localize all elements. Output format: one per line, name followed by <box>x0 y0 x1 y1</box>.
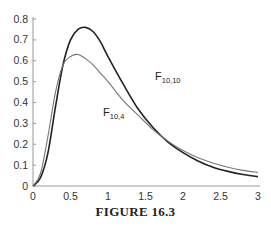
y-tick-label: 0.2 <box>13 138 28 150</box>
series-label-10-4: F10,4 <box>103 106 124 121</box>
series-lines <box>33 27 258 186</box>
x-tick-label: 0 <box>30 190 36 202</box>
y-tick-label: 0.1 <box>13 159 28 171</box>
y-tick-label: 0.6 <box>13 54 28 66</box>
y-tick-label: 0 <box>22 180 28 192</box>
y-tick-label: 0.4 <box>13 96 28 108</box>
x-tick-label: 2.5 <box>213 190 228 202</box>
series-line-10-4 <box>33 54 258 186</box>
x-tick-label: 2 <box>180 190 186 202</box>
x-tick-label: 1.5 <box>138 190 153 202</box>
y-tick-label: 0.3 <box>13 117 28 129</box>
y-tick-label: 0.8 <box>13 13 28 25</box>
x-tick-label: 0.5 <box>63 190 78 202</box>
y-tick-label: 0.7 <box>13 33 28 45</box>
f-distribution-chart: 00.10.20.30.40.50.60.70.800.511.522.53 F… <box>0 0 271 234</box>
x-tick-label: 3 <box>255 190 261 202</box>
figure-caption: FIGURE 16.3 <box>0 204 271 220</box>
series-line-10-10 <box>33 27 258 186</box>
x-tick-label: 1 <box>105 190 111 202</box>
series-label-10-10: F10,10 <box>155 70 181 85</box>
y-tick-label: 0.5 <box>13 75 28 87</box>
